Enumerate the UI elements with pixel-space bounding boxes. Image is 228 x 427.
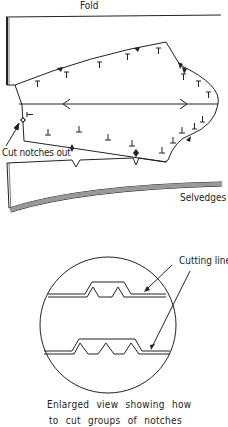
selvedge-piece — [7, 158, 167, 167]
fold-line — [6, 15, 221, 17]
caption-line-1: Enlarged view showing how — [47, 397, 191, 413]
selvedges-label: Selvedges — [180, 192, 226, 203]
caption: Enlarged view showing how to cut groups … — [47, 397, 191, 427]
fold-label: Fold — [80, 0, 99, 11]
tailor-tack-marks — [27, 48, 211, 153]
pattern-diagram — [0, 0, 228, 427]
pattern-piece-outline — [15, 42, 218, 162]
cut-notches-label: Cut notches out — [2, 147, 71, 158]
enlarged-view — [40, 257, 190, 393]
caption-line-2: to cut groups of notches — [47, 413, 191, 427]
cutting-line-label: Cutting line — [179, 255, 228, 266]
